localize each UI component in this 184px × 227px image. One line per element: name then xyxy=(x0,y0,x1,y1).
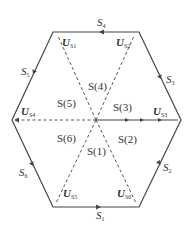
label-s3: S3 xyxy=(166,73,175,86)
label-us1: US1 xyxy=(62,36,76,49)
sector-label-1: S(1) xyxy=(87,145,106,158)
label-s2: S2 xyxy=(163,161,172,174)
label-s4: S4 xyxy=(97,16,106,29)
label-s6: S6 xyxy=(19,166,28,179)
label-us4: US4 xyxy=(21,105,35,118)
label-us5: US5 xyxy=(63,187,77,200)
sector-label-5: S(5) xyxy=(57,97,76,110)
label-s5: S5 xyxy=(21,65,30,78)
label-us6: US6 xyxy=(117,187,131,200)
sector-label-4: S(4) xyxy=(88,80,107,93)
label-us2: US2 xyxy=(116,36,130,49)
hexagon-diagram: US1 US2 US3 US4 US5 US6 S4 S5 S3 S6 S2 S… xyxy=(0,0,184,227)
sector-label-3: S(3) xyxy=(113,101,132,114)
label-s1: S1 xyxy=(96,209,105,222)
sector-label-2: S(2) xyxy=(118,133,137,146)
label-us3: US3 xyxy=(153,105,167,118)
sector-label-6: S(6) xyxy=(57,132,76,145)
